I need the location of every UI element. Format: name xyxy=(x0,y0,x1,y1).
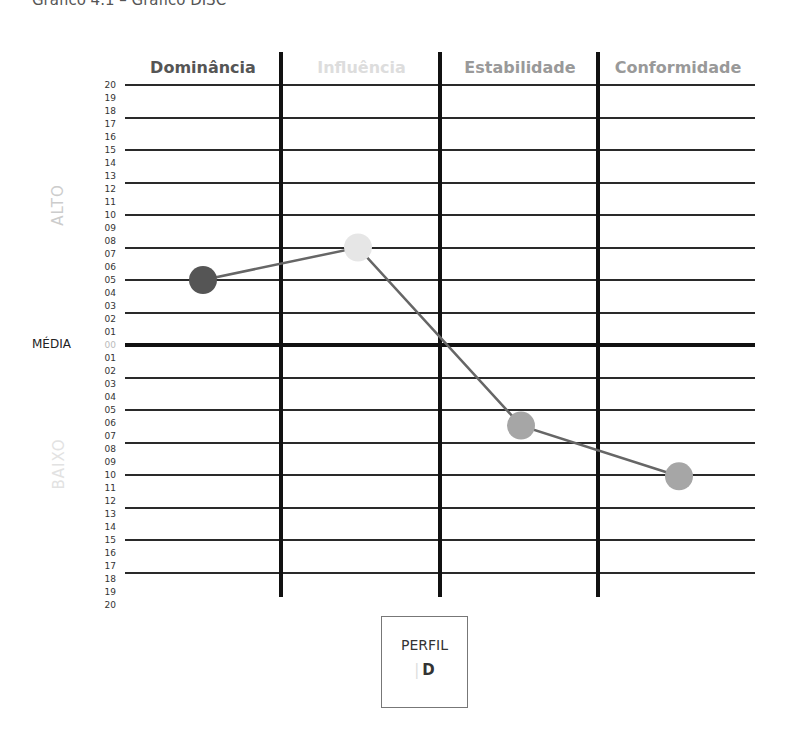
perfil-box: PERFIL |D xyxy=(381,616,468,708)
series-line xyxy=(203,248,679,477)
data-point-influencia xyxy=(344,234,372,262)
data-point-conformidade xyxy=(665,462,693,490)
perfil-label: PERFIL xyxy=(382,637,467,653)
perfil-bar: | xyxy=(414,661,419,679)
data-point-estabilidade xyxy=(507,412,535,440)
perfil-value: D xyxy=(422,661,434,679)
data-point-dominancia xyxy=(189,266,217,294)
perfil-value-row: |D xyxy=(382,661,467,679)
